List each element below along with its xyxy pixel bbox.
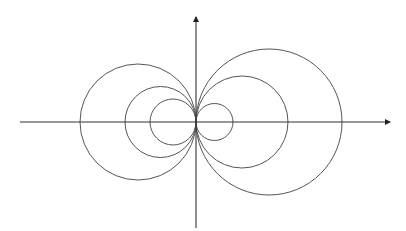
- tangent-circles-diagram: [0, 0, 406, 231]
- diagram-canvas: [0, 0, 406, 231]
